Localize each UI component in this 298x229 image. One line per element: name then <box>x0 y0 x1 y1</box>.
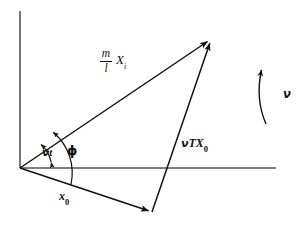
rotation-nu-label: ν <box>283 89 291 101</box>
vector-nutx0-label: νTX0 <box>181 137 208 152</box>
vector-mlxi-label: m l Xi <box>100 48 126 74</box>
vector-x0-arrow <box>20 168 149 211</box>
rotation-arrow-icon <box>259 70 266 124</box>
vector-symbol-X-subscript: i <box>124 62 126 71</box>
angle-nut-body: t <box>49 147 52 158</box>
nutx0-subscript: 0 <box>204 144 208 154</box>
fraction-numerator: m <box>101 48 111 61</box>
angle-nut-label: νt <box>42 147 52 159</box>
nu-symbol: ν <box>181 137 189 150</box>
fraction-m-over-l: m l <box>100 48 112 74</box>
x0-subscript: 0 <box>65 197 69 207</box>
angle-arc-phi <box>53 132 72 185</box>
vector-x0-label: x0 <box>59 190 69 205</box>
vector-symbol-X-base: X <box>116 52 124 67</box>
vector-diagram-figure: m l Xi νTX0 νt ϕ x0 ν <box>0 0 298 229</box>
nutx0-body: TX <box>189 136 204 150</box>
vector-nutx0-arrow <box>152 43 210 212</box>
vector-symbol-X: Xi <box>116 53 126 70</box>
fraction-denominator: l <box>103 62 108 75</box>
angle-phi-label: ϕ <box>67 144 77 157</box>
diagram-canvas <box>0 0 298 229</box>
